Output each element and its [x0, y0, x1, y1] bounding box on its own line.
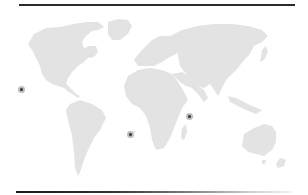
- marker-dot-icon: [188, 115, 191, 118]
- map-marker[interactable]: [127, 131, 134, 138]
- madagascar: [181, 124, 187, 140]
- north-america: [28, 22, 104, 92]
- map-marker[interactable]: [186, 113, 193, 120]
- greenland: [108, 19, 132, 40]
- map-marker[interactable]: [18, 86, 25, 93]
- tasmania: [262, 160, 266, 164]
- central-america: [66, 84, 80, 98]
- marker-dot-icon: [20, 88, 23, 91]
- southeast-asia-islands: [228, 96, 262, 114]
- world-map: [0, 0, 308, 195]
- japan: [260, 46, 268, 62]
- asia: [170, 24, 268, 96]
- australia: [242, 124, 276, 156]
- marker-label: ': [134, 131, 135, 136]
- marker-dot-icon: [129, 133, 132, 136]
- new-zealand: [276, 158, 286, 168]
- south-america: [66, 100, 106, 176]
- bottom-divider-line: [16, 191, 292, 193]
